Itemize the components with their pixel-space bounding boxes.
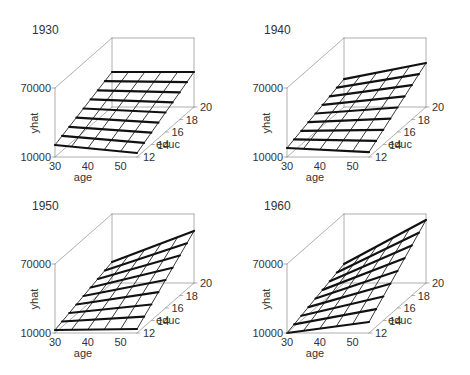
surface-educ-line [55, 329, 137, 330]
x-tick-label: 50 [346, 336, 358, 348]
y-axis-label: educ [156, 138, 180, 150]
z-tick-label-bottom: 10000 [20, 327, 51, 339]
box-edge [287, 214, 344, 264]
panel-1940: 19407000010000yhat304050age1214161820edu… [252, 23, 444, 183]
surface-educ-line [287, 148, 369, 152]
box-edge [55, 214, 112, 264]
surface-educ-line [98, 90, 180, 92]
x-axis-label: age [74, 171, 92, 183]
x-axis-label: age [306, 347, 324, 359]
y-tick-label: 20 [432, 101, 444, 113]
x-axis-label: age [74, 347, 92, 359]
surface-educ-line [69, 305, 151, 314]
box-edge [55, 38, 112, 88]
surface-educ-line [62, 136, 144, 143]
z-tick-label-top: 70000 [252, 258, 283, 270]
z-axis-label: yhat [260, 289, 272, 310]
surface-educ-line [337, 233, 419, 273]
surface-educ-line [323, 258, 405, 290]
panel-1950: 19507000010000yhat304050age1214161820edu… [20, 199, 212, 359]
surface-educ-line [84, 109, 166, 113]
x-tick-label: 50 [114, 160, 126, 172]
z-axis-label: yhat [28, 289, 40, 310]
y-tick-label: 12 [143, 151, 155, 163]
y-tick-label: 18 [186, 114, 198, 126]
z-tick-label-bottom: 10000 [252, 327, 283, 339]
surface-educ-line [69, 127, 151, 133]
y-axis-label: educ [156, 314, 180, 326]
y-tick-label: 20 [200, 101, 212, 113]
surface-educ-line [323, 96, 405, 105]
surface-educ-line [330, 246, 412, 282]
box-edge [287, 38, 344, 88]
y-axis-label: educ [388, 138, 412, 150]
surface-educ-line [344, 63, 426, 79]
y-tick-label: 12 [375, 327, 387, 339]
surface-educ-line [105, 81, 187, 82]
surface-educ-line [308, 119, 390, 123]
y-tick-label: 18 [186, 290, 198, 302]
surface-educ-line [91, 99, 173, 102]
y-tick-label: 16 [172, 126, 184, 138]
y-tick-label: 18 [418, 290, 430, 302]
panel-title: 1960 [264, 199, 291, 213]
x-axis-label: age [306, 171, 324, 183]
y-tick-label: 18 [418, 114, 430, 126]
surface-educ-line [294, 139, 376, 141]
z-axis-label: yhat [28, 113, 40, 134]
y-tick-label: 16 [404, 302, 416, 314]
panel-title: 1930 [32, 23, 59, 37]
x-tick-label: 30 [49, 336, 61, 348]
surface-educ-line [62, 317, 144, 322]
x-tick-label: 50 [346, 160, 358, 172]
panel-1960: 19607000010000yhat304050age1214161820edu… [252, 199, 444, 359]
surface-educ-line [112, 231, 194, 262]
y-tick-label: 16 [172, 302, 184, 314]
z-tick-label-top: 70000 [252, 82, 283, 94]
y-axis-label: educ [388, 314, 412, 326]
y-tick-label: 16 [404, 126, 416, 138]
y-tick-label: 20 [432, 277, 444, 289]
y-tick-label: 12 [375, 151, 387, 163]
surface-educ-line [76, 118, 158, 123]
y-tick-label: 12 [143, 327, 155, 339]
z-tick-label-top: 70000 [20, 258, 51, 270]
panel-title: 1940 [264, 23, 291, 37]
surface-educ-line [301, 130, 383, 131]
panel-title: 1950 [32, 199, 59, 213]
surface-plot-grid: 19307000010000yhat304050age1214161820edu… [0, 0, 470, 375]
x-tick-label: 50 [114, 336, 126, 348]
panel-1930: 19307000010000yhat304050age1214161820edu… [20, 23, 212, 183]
z-axis-label: yhat [260, 113, 272, 134]
x-tick-label: 30 [49, 160, 61, 172]
surface-educ-line [316, 108, 398, 114]
x-tick-label: 30 [281, 336, 293, 348]
z-tick-label-bottom: 10000 [20, 151, 51, 163]
z-tick-label-bottom: 10000 [252, 151, 283, 163]
x-tick-label: 30 [281, 160, 293, 172]
y-tick-label: 20 [200, 277, 212, 289]
z-tick-label-top: 70000 [20, 82, 51, 94]
